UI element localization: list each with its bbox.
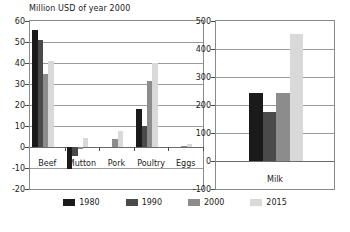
y-axis-tick-label: 0	[187, 157, 211, 166]
bar	[152, 63, 157, 147]
bar	[290, 34, 304, 161]
legend-item[interactable]: 1980	[63, 198, 99, 207]
legend-item[interactable]: 2015	[250, 198, 286, 207]
gridline	[30, 105, 203, 106]
y-axis-tick-label: 500	[187, 17, 211, 26]
legend-swatch	[63, 199, 75, 206]
chart-panel-milk	[215, 20, 335, 190]
y-axis-tick-label: 50	[1, 38, 25, 47]
legend-item[interactable]: 1990	[126, 198, 162, 207]
y-axis-tick-mark	[25, 189, 29, 190]
zero-line	[30, 147, 203, 148]
y-axis-tick-mark	[25, 126, 29, 127]
x-axis-tick-mark	[134, 147, 135, 151]
y-axis-tick-mark	[25, 42, 29, 43]
legend-label: 2000	[204, 198, 224, 207]
gridline	[30, 84, 203, 85]
gridline	[30, 126, 203, 127]
gridline	[216, 49, 334, 50]
y-axis-tick-mark	[25, 168, 29, 169]
x-axis-tick-mark	[203, 147, 204, 151]
y-axis-tick-mark	[211, 77, 215, 78]
y-axis-tick-mark	[211, 161, 215, 162]
y-axis-tick-label: 300	[187, 73, 211, 82]
x-axis-category-label: Milk	[267, 175, 283, 184]
y-axis-tick-label: -100	[187, 185, 211, 194]
legend-swatch	[188, 199, 200, 206]
bar	[249, 93, 263, 161]
y-axis-tick-mark	[211, 49, 215, 50]
y-axis-tick-label: 10	[1, 122, 25, 131]
bar	[276, 93, 290, 161]
y-axis-tick-mark	[211, 133, 215, 134]
legend-swatch	[126, 199, 138, 206]
y-axis-tick-mark	[25, 21, 29, 22]
bar	[83, 138, 88, 147]
chart-title-left: Million USD of year 2000	[29, 4, 130, 13]
bar	[263, 112, 277, 161]
y-axis-tick-label: 30	[1, 80, 25, 89]
plot-area-milk	[216, 21, 334, 189]
gridline	[30, 42, 203, 43]
y-axis-tick-label: 0	[1, 143, 25, 152]
legend-item[interactable]: 2000	[188, 198, 224, 207]
y-axis-tick-mark	[25, 147, 29, 148]
bar	[118, 131, 123, 147]
y-axis-tick-label: -10	[1, 164, 25, 173]
bar	[187, 144, 192, 147]
x-axis-tick-mark	[65, 147, 66, 151]
bar	[78, 147, 83, 149]
zero-line	[216, 161, 334, 162]
y-axis-tick-label: 400	[187, 45, 211, 54]
x-axis-category-label: Beef	[38, 159, 56, 168]
x-axis-tick-mark	[168, 147, 169, 151]
gridline	[30, 168, 203, 169]
gridline	[216, 105, 334, 106]
gridline	[30, 63, 203, 64]
x-axis-category-label: Poultry	[137, 159, 165, 168]
legend-label: 1980	[79, 198, 99, 207]
legend-label: 2015	[266, 198, 286, 207]
y-axis-tick-mark	[211, 105, 215, 106]
legend-swatch	[250, 199, 262, 206]
y-axis-tick-label: -20	[1, 185, 25, 194]
y-axis-tick-label: 40	[1, 59, 25, 68]
x-axis-category-label: Pork	[108, 159, 125, 168]
x-axis-tick-mark	[99, 147, 100, 151]
y-axis-tick-mark	[25, 84, 29, 85]
y-axis-tick-mark	[25, 63, 29, 64]
gridline	[216, 77, 334, 78]
y-axis-tick-mark	[25, 105, 29, 106]
y-axis-tick-label: 60	[1, 17, 25, 26]
y-axis-tick-mark	[211, 21, 215, 22]
bar	[48, 61, 53, 147]
chart-legend: 1980199020002015	[0, 198, 350, 207]
y-axis-tick-label: 200	[187, 101, 211, 110]
legend-label: 1990	[142, 198, 162, 207]
y-axis-tick-mark	[211, 189, 215, 190]
x-axis-category-label: Mutton	[68, 159, 96, 168]
y-axis-tick-label: 100	[187, 129, 211, 138]
figure: Million USD of year 2000 198019902000201…	[0, 0, 350, 232]
y-axis-tick-label: 20	[1, 101, 25, 110]
